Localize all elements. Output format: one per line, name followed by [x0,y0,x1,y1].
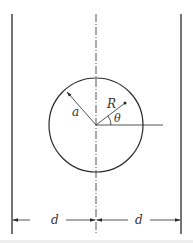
angle-arc [108,116,111,125]
label-theta: θ [114,112,121,125]
point-marker [124,102,127,105]
label-d-right: d [135,213,143,227]
label-R: R [106,97,116,111]
cylinder-between-walls-diagram: a R θ d d [0,0,193,243]
label-a: a [72,105,79,119]
label-d-left: d [51,213,59,227]
